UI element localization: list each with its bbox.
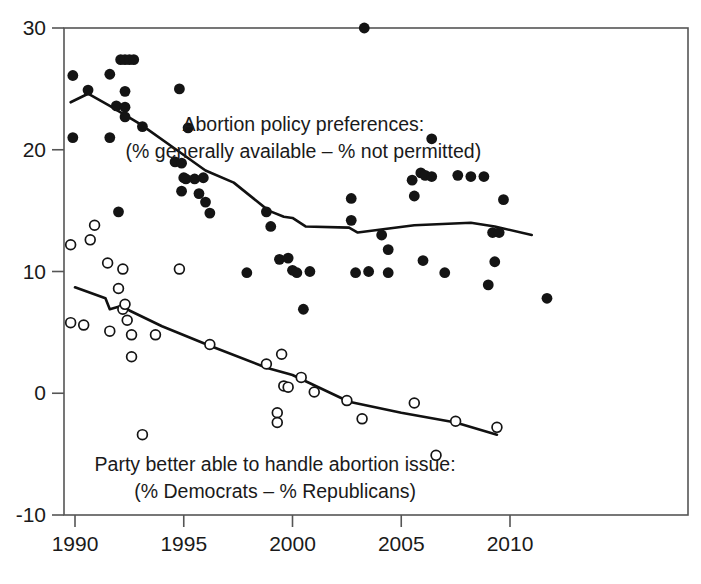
x-tick-label: 2000: [269, 532, 316, 555]
data-point-open: [342, 396, 352, 406]
data-point-filled: [241, 267, 252, 278]
data-point-open: [66, 240, 76, 250]
data-point-filled: [498, 194, 509, 205]
data-point-open: [451, 416, 461, 426]
data-point-filled: [174, 83, 185, 94]
data-point-filled: [305, 266, 316, 277]
data-point-filled: [359, 23, 370, 34]
data-point-filled: [439, 267, 450, 278]
data-point-filled: [204, 208, 215, 219]
x-axis: 19901995200020052010: [52, 515, 534, 555]
data-point-filled: [291, 267, 302, 278]
data-point-filled: [83, 85, 94, 96]
data-point-filled: [407, 175, 418, 186]
data-point-filled: [479, 171, 490, 182]
data-point-open: [409, 398, 419, 408]
data-point-filled: [409, 191, 420, 202]
data-point-open: [151, 330, 161, 340]
data-point-filled: [426, 171, 437, 182]
plot-frame: [64, 28, 688, 515]
data-point-filled: [104, 132, 115, 143]
data-point-filled: [298, 304, 309, 315]
y-tick-label: 0: [34, 381, 46, 404]
data-points: [66, 23, 553, 461]
data-point-filled: [383, 244, 394, 255]
data-point-filled: [113, 206, 124, 217]
data-point-filled: [198, 172, 209, 183]
y-tick-label: 20: [23, 138, 46, 161]
data-point-open: [492, 422, 502, 432]
x-tick-label: 2005: [378, 532, 425, 555]
data-point-open: [114, 284, 124, 294]
party-handle-annotation-line-2: (% Democrats – % Republicans): [134, 480, 416, 502]
data-point-open: [272, 408, 282, 418]
data-point-open: [90, 220, 100, 230]
party-handle-trend: [75, 287, 497, 434]
data-point-open: [296, 373, 306, 383]
data-point-filled: [363, 266, 374, 277]
abortion-opinion-chart: -100102030 19901995200020052010 Abortion…: [0, 0, 701, 584]
data-point-open: [262, 359, 272, 369]
data-point-filled: [465, 171, 476, 182]
data-point-open: [122, 315, 132, 325]
data-point-open: [127, 330, 137, 340]
data-point-open: [120, 299, 130, 309]
data-point-open: [118, 264, 128, 274]
data-point-open: [205, 340, 215, 350]
data-point-filled: [483, 279, 494, 290]
party-handle-annotation-line-1: Party better able to handle abortion iss…: [95, 453, 456, 475]
x-tick-label: 1990: [52, 532, 99, 555]
data-point-open: [309, 387, 319, 397]
plot-border: [64, 28, 688, 515]
data-point-filled: [542, 293, 553, 304]
abortion-policy-annotation-line-1: Abortion policy preferences:: [183, 113, 425, 135]
data-point-filled: [383, 267, 394, 278]
data-point-open: [277, 349, 287, 359]
data-point-filled: [104, 69, 115, 80]
data-point-open: [283, 382, 293, 392]
y-tick-label: 10: [23, 260, 46, 283]
chart-svg: -100102030 19901995200020052010 Abortion…: [0, 0, 701, 584]
abortion-policy-annotation-line-2: (% generally available – % not permitted…: [126, 140, 482, 162]
data-point-filled: [346, 193, 357, 204]
data-point-filled: [261, 206, 272, 217]
data-point-open: [79, 320, 89, 330]
data-point-filled: [137, 121, 148, 132]
data-point-filled: [346, 215, 357, 226]
data-point-filled: [494, 227, 505, 238]
data-point-filled: [194, 188, 205, 199]
data-point-filled: [128, 54, 139, 65]
y-tick-label: -10: [16, 503, 46, 526]
data-point-filled: [283, 253, 294, 264]
y-axis: -100102030: [16, 16, 64, 526]
data-point-filled: [120, 102, 131, 113]
data-point-filled: [452, 170, 463, 181]
data-point-filled: [67, 70, 78, 81]
data-point-filled: [350, 267, 361, 278]
data-point-open: [138, 430, 148, 440]
data-point-filled: [376, 230, 387, 241]
data-point-open: [66, 318, 76, 328]
data-point-open: [272, 418, 282, 428]
data-point-filled: [200, 197, 211, 208]
data-point-filled: [265, 221, 276, 232]
data-point-open: [105, 326, 115, 336]
x-tick-label: 2010: [487, 532, 534, 555]
data-point-filled: [489, 256, 500, 267]
y-tick-label: 30: [23, 16, 46, 39]
data-point-open: [175, 264, 185, 274]
data-point-filled: [67, 132, 78, 143]
data-point-filled: [120, 111, 131, 122]
data-point-filled: [418, 255, 429, 266]
x-tick-label: 1995: [160, 532, 207, 555]
data-point-filled: [120, 86, 131, 97]
data-point-open: [103, 258, 113, 268]
data-point-filled: [176, 186, 187, 197]
data-point-open: [357, 414, 367, 424]
data-point-open: [127, 352, 137, 362]
data-point-open: [85, 235, 95, 245]
